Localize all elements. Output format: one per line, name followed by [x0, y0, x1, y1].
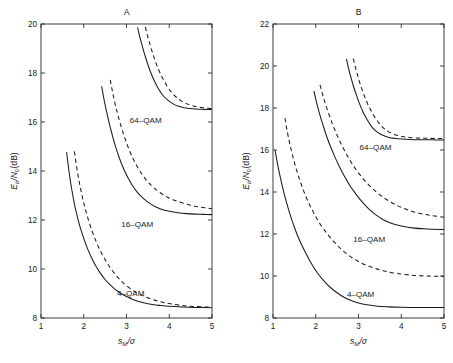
y-ticklabel-A-2: 12: [28, 216, 38, 225]
panel-title-B: B: [356, 7, 362, 17]
qam-comparison-figure: A810121416182012345sM/σEb/N0(dB)64–QAM16…: [0, 0, 453, 363]
x-ticklabel-A-0: 1: [39, 322, 44, 331]
y-ticklabel-B-7: 22: [260, 20, 270, 29]
series-B-16-qam-exact: [314, 91, 444, 229]
plot-frame-A: [41, 24, 212, 318]
y-ticklabel-B-6: 20: [260, 62, 270, 71]
annotation-A-0: 64–QAM: [130, 116, 162, 125]
annotation-B-0: 64–QAM: [360, 143, 392, 152]
annotation-B-2: 4–QAM: [347, 290, 375, 299]
curves-B: [275, 59, 444, 308]
y-axis-label-B: Eb/N0(dB): [241, 152, 252, 190]
y-axis-label-A: Eb/N0(dB): [9, 152, 20, 190]
figure-canvas: A810121416182012345sM/σEb/N0(dB)64–QAM16…: [0, 0, 453, 363]
x-axis-label-A: sM/σ: [118, 336, 136, 347]
x-ticklabel-B-4: 5: [442, 322, 447, 331]
y-ticklabel-A-1: 10: [28, 265, 38, 274]
panel-a: A810121416182012345sM/σEb/N0(dB)64–QAM16…: [9, 7, 215, 347]
y-ticklabel-B-3: 14: [260, 188, 270, 197]
y-ticklabel-A-4: 16: [28, 118, 38, 127]
series-A-4-qam-bound: [74, 151, 212, 307]
x-ticklabel-A-3: 4: [167, 322, 172, 331]
y-ticklabel-B-0: 8: [264, 314, 269, 323]
series-B-4-qam-bound: [285, 118, 444, 276]
x-ticklabel-B-2: 3: [356, 322, 361, 331]
x-ticklabel-B-0: 1: [271, 322, 276, 331]
y-ticklabel-A-0: 8: [32, 314, 37, 323]
y-ticklabel-A-6: 20: [28, 20, 38, 29]
y-ticklabel-A-3: 14: [28, 167, 38, 176]
curves-A: [67, 27, 212, 308]
plot-frame-B: [273, 24, 444, 318]
y-ticklabel-B-5: 18: [260, 104, 270, 113]
series-B-64-qam-exact: [347, 59, 444, 140]
annotation-A-2: 4–QAM: [117, 289, 145, 298]
y-ticklabel-B-1: 10: [260, 272, 270, 281]
y-ticklabel-B-2: 12: [260, 230, 270, 239]
series-A-16-qam-exact: [102, 86, 212, 214]
series-A-4-qam-exact: [67, 153, 212, 308]
x-ticklabel-A-1: 2: [81, 322, 86, 331]
series-A-16-qam-bound: [110, 80, 212, 209]
x-ticklabel-A-4: 5: [210, 322, 215, 331]
series-A-64-qam-exact: [138, 28, 212, 110]
annotation-B-1: 16–QAM: [353, 235, 385, 244]
panel-title-A: A: [124, 7, 130, 17]
y-ticklabel-B-4: 16: [260, 146, 270, 155]
x-ticklabel-B-3: 4: [399, 322, 404, 331]
annotation-A-1: 16–QAM: [121, 220, 153, 229]
series-B-64-qam-bound: [353, 59, 444, 139]
x-axis-label-B: sM/σ: [350, 336, 368, 347]
y-ticklabel-A-5: 18: [28, 69, 38, 78]
x-ticklabel-A-2: 3: [124, 322, 129, 331]
x-ticklabel-B-1: 2: [313, 322, 318, 331]
series-A-64-qam-bound: [145, 27, 212, 109]
panel-b: B81012141618202212345sM/σEb/N0(dB)64–QAM…: [241, 7, 447, 347]
